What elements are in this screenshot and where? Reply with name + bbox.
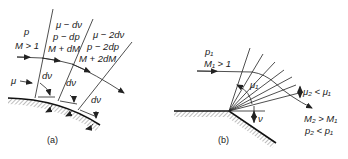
upstream-pressure-label: p₁ xyxy=(204,46,213,57)
mach-label-3: M + 2dM xyxy=(79,53,116,64)
caption-b: (b) xyxy=(218,135,229,145)
pressure-label-2: p − dp xyxy=(52,31,80,42)
mach-label-2: M + dM xyxy=(48,43,80,54)
figure-b: p₁ M₁ > 1 μ₁ μ₂ < μ₁ ν M₂ > M₁ p₂ < p₁ (… xyxy=(174,46,337,148)
mach-angle-label: μ xyxy=(10,75,17,86)
turn-label-3: dν xyxy=(91,94,101,105)
pressure-label-3: p − 2dp xyxy=(86,41,119,52)
angle-label-3: μ − 2dν xyxy=(92,29,125,40)
turn-angle-label: ν xyxy=(258,113,263,124)
figure-a: p M > 1 μ − dν p − dp M + dM μ − 2dν p −… xyxy=(8,9,132,145)
turn-label-1: dν xyxy=(42,70,52,81)
mach-angle-2-label: μ₂ < μ₁ xyxy=(302,86,331,97)
curved-wall-hatch xyxy=(8,98,100,131)
downstream-pressure-label: p₂ < p₁ xyxy=(304,125,333,136)
mach-label-1: M > 1 xyxy=(15,40,39,51)
pressure-label-1: p xyxy=(23,26,29,37)
caption-a: (a) xyxy=(47,135,58,145)
mach-angle-1-label: μ₁ xyxy=(249,79,258,90)
downstream-mach-label: M₂ > M₁ xyxy=(304,113,337,124)
prandtl-meyer-expansion-diagram: p M > 1 μ − dν p − dp M + dM μ − 2dν p −… xyxy=(0,0,348,159)
upstream-mach-label: M₁ > 1 xyxy=(204,58,231,69)
angle-label-2: μ − dν xyxy=(55,19,82,30)
turn-label-2: dν xyxy=(66,77,76,88)
